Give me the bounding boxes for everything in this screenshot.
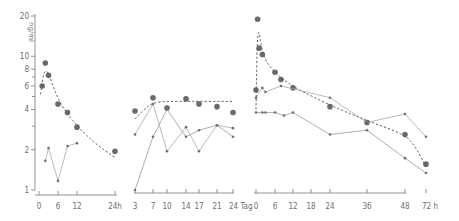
x-tick-label: 17 [194, 202, 203, 211]
individual-data-point [329, 133, 332, 136]
mean-data-point [150, 95, 156, 101]
mean-data-point [55, 101, 61, 107]
individual-b-line [256, 112, 426, 173]
individual-data-point [232, 127, 235, 130]
individual-data-point [198, 129, 201, 132]
x-tick-label: 6 [56, 202, 61, 211]
x-tick-label: 72 h [422, 202, 438, 211]
fit-curve-panel-3 [256, 32, 426, 166]
x-tick-label: 24 [325, 202, 335, 211]
individual-b-line [135, 109, 233, 190]
mean-data-point [230, 110, 236, 116]
individual-data-point [152, 135, 155, 138]
individual-data-point [57, 180, 60, 183]
individual-data-point [76, 142, 79, 145]
x-tick-label: 14 [181, 202, 191, 211]
individual-data-point [366, 121, 369, 124]
individual-data-point [261, 87, 264, 90]
individual-data-point [66, 145, 69, 148]
individual-data-point [280, 85, 283, 88]
individual-data-point [292, 111, 295, 114]
mean-data-point [43, 60, 49, 66]
mean-data-point [183, 96, 189, 102]
individual-data-point [274, 111, 277, 114]
y-axis-label: ng/ml [27, 22, 35, 42]
mean-data-point [112, 148, 118, 154]
fit-curve-panel-1 [41, 71, 115, 157]
individual-data-point [166, 108, 169, 111]
y-tick-label: 20 [20, 12, 30, 21]
x-tick-label: 12 [288, 202, 297, 211]
individual-data-point [261, 111, 264, 114]
individual-data-point [425, 172, 428, 175]
mean-data-point [46, 73, 52, 79]
x-tick-label: 0 [254, 202, 259, 211]
panel-2: 371014172124 Tag [132, 95, 252, 211]
individual-data-point [44, 160, 47, 163]
x-tick-label: 24 Tag [229, 202, 253, 211]
x-tick-label: 7 [151, 202, 156, 211]
x-tick-label: 18 [306, 202, 316, 211]
individual-data-point [216, 124, 219, 127]
individual-data-point [166, 150, 169, 153]
panel-1: 061224h [35, 60, 122, 211]
x-tick-label: 48 [400, 202, 410, 211]
mean-data-point [255, 16, 261, 22]
individual-data-point [404, 157, 407, 160]
panels: 061224h371014172124 Tag06121824364872 h [35, 16, 438, 211]
individual-data-point [366, 129, 369, 132]
individual-data-point [134, 189, 137, 192]
individual-a-line [256, 86, 426, 137]
panel-3: 06121824364872 h [253, 16, 438, 211]
y-tick-label: 6 [24, 82, 29, 91]
individual-data-point [185, 135, 188, 138]
x-tick-label: 24h [108, 202, 122, 211]
x-tick-label: 10 [162, 202, 172, 211]
individual-data-point [264, 91, 267, 94]
individual-data-point [329, 96, 332, 99]
y-tick-label: 8 [24, 65, 29, 74]
x-tick-label: 36 [362, 202, 372, 211]
individual-a-line [135, 104, 233, 151]
individual-data-point [198, 150, 201, 153]
individual-data-point [185, 126, 188, 129]
x-tick-label: 21 [212, 202, 221, 211]
y-tick-label: 2 [24, 146, 29, 155]
x-tick-label: 0 [37, 202, 42, 211]
individual-data-point [404, 113, 407, 116]
individual-line [45, 143, 77, 181]
y-tick-label: 1 [24, 186, 29, 195]
y-tick-label: 4 [24, 105, 29, 114]
individual-data-point [264, 111, 267, 114]
individual-data-point [255, 111, 258, 114]
x-tick-label: 6 [273, 202, 278, 211]
pharmacokinetic-chart: 124681020 ng/ml 061224h371014172124 Tag0… [0, 0, 459, 221]
individual-data-point [425, 135, 428, 138]
mean-data-point [196, 101, 202, 107]
individual-data-point [134, 133, 137, 136]
x-tick-label: 12 [72, 202, 81, 211]
x-tick-label: 3 [133, 202, 138, 211]
individual-data-point [47, 147, 50, 150]
mean-data-point [214, 104, 220, 110]
individual-data-point [283, 114, 286, 117]
individual-data-point [232, 135, 235, 138]
y-tick-label: 10 [20, 52, 30, 61]
mean-data-point [132, 108, 138, 114]
